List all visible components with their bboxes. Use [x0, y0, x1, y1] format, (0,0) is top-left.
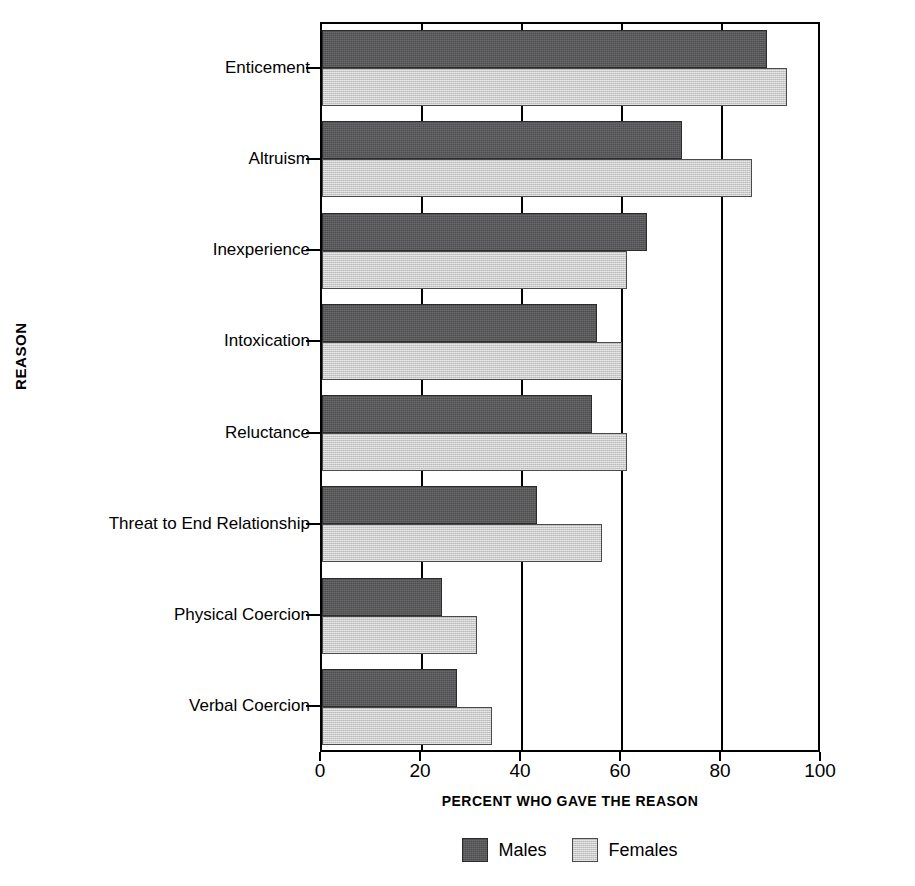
x-axis-tick-label: 0: [285, 760, 355, 782]
y-axis-label: Verbal Coercion: [30, 697, 310, 715]
y-axis-label: Reluctance: [30, 424, 310, 442]
bar-females-4: [322, 433, 627, 471]
plot-area: [320, 22, 820, 752]
legend-label: Males: [498, 840, 546, 861]
y-axis-tick: [306, 249, 320, 251]
chart-legend: MalesFemales: [320, 838, 820, 862]
y-axis-title: REASON: [12, 322, 29, 390]
y-axis-label: Threat to End Relationship: [30, 515, 310, 533]
bar-females-5: [322, 524, 602, 562]
y-axis-tick: [306, 523, 320, 525]
y-axis-tick: [306, 614, 320, 616]
bar-females-3: [322, 342, 622, 380]
x-axis-tick-label: 20: [385, 760, 455, 782]
x-axis-tick-label: 40: [485, 760, 555, 782]
bar-males-1: [322, 121, 682, 159]
females-swatch: [572, 838, 598, 862]
legend-item-females: Females: [572, 838, 677, 862]
y-axis-label: Inexperience: [30, 241, 310, 259]
gridline: [721, 24, 723, 750]
x-axis-tick-label: 80: [685, 760, 755, 782]
y-axis-tick: [306, 705, 320, 707]
bar-males-5: [322, 486, 537, 524]
x-axis-tick-label: 100: [785, 760, 855, 782]
y-axis-label: Enticement: [30, 59, 310, 77]
y-axis-category-labels: EnticementAltruismInexperienceIntoxicati…: [30, 22, 310, 752]
x-axis-title: PERCENT WHO GAVE THE REASON: [320, 793, 820, 809]
y-axis-label: Physical Coercion: [30, 606, 310, 624]
y-axis-tick: [306, 432, 320, 434]
legend-item-males: Males: [462, 838, 546, 862]
bar-females-6: [322, 616, 477, 654]
y-axis-label: Altruism: [30, 150, 310, 168]
legend-label: Females: [608, 840, 677, 861]
x-axis-tick-label: 60: [585, 760, 655, 782]
bar-males-0: [322, 30, 767, 68]
bar-females-0: [322, 68, 787, 106]
y-axis-tick: [306, 67, 320, 69]
bar-males-4: [322, 395, 592, 433]
bar-males-7: [322, 669, 457, 707]
bar-males-3: [322, 304, 597, 342]
bar-chart: REASON EnticementAltruismInexperienceInt…: [0, 0, 915, 886]
bar-females-1: [322, 159, 752, 197]
y-axis-tick: [306, 340, 320, 342]
bar-females-7: [322, 707, 492, 745]
bar-males-6: [322, 578, 442, 616]
males-swatch: [462, 838, 488, 862]
bar-females-2: [322, 251, 627, 289]
bar-males-2: [322, 213, 647, 251]
y-axis-label: Intoxication: [30, 332, 310, 350]
y-axis-tick: [306, 158, 320, 160]
